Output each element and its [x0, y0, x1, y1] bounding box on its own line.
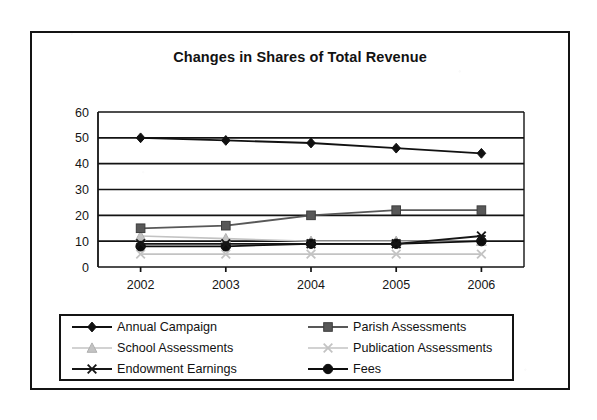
diamond-marker	[392, 143, 401, 153]
square-marker	[324, 322, 333, 331]
square-marker	[477, 206, 486, 215]
x-axis-tick: 2006	[467, 278, 495, 292]
chart-border: Changes in Shares of Total Revenue 01020…	[30, 31, 570, 390]
y-axis-tick: 60	[75, 106, 89, 120]
square-marker	[307, 211, 316, 220]
screenshot-canvas: Changes in Shares of Total Revenue 01020…	[0, 0, 597, 420]
legend-item-annual-campaign[interactable]: Annual Campaign	[69, 320, 305, 334]
legend-label: Annual Campaign	[117, 320, 217, 334]
legend-circle-marker	[305, 362, 351, 376]
diamond-marker	[307, 138, 316, 148]
legend-item-endowment-earnings[interactable]: Endowment Earnings	[69, 362, 305, 376]
y-axis-tick: 0	[82, 261, 89, 275]
series-annual-campaign	[136, 133, 485, 158]
legend-star-marker	[69, 362, 115, 376]
square-marker	[222, 221, 231, 230]
circle-marker	[477, 236, 486, 245]
square-marker	[136, 224, 145, 233]
legend-item-fees[interactable]: Fees	[305, 362, 512, 376]
diamond-marker	[88, 322, 97, 332]
legend-diamond-marker	[69, 320, 115, 334]
square-marker	[392, 206, 401, 215]
legend-item-school-assessments[interactable]: School Assessments	[69, 341, 305, 355]
series-publication-assessments	[136, 250, 485, 259]
legend-item-publication-assessments[interactable]: Publication Assessments	[305, 341, 512, 355]
circle-marker	[323, 364, 332, 373]
y-axis-tick: 20	[75, 209, 89, 223]
chart-legend: Annual CampaignParish AssessmentsSchool …	[59, 314, 514, 381]
legend-label: Endowment Earnings	[117, 362, 237, 376]
x-axis-tick: 2002	[127, 278, 155, 292]
legend-x-marker	[305, 341, 351, 355]
x-axis-tick: 2005	[382, 278, 410, 292]
star-marker	[88, 364, 97, 373]
y-axis-tick: 10	[75, 235, 89, 249]
x-axis-tick: 2003	[212, 278, 240, 292]
x-axis-tick: 2004	[297, 278, 325, 292]
legend-item-parish-assessments[interactable]: Parish Assessments	[305, 320, 512, 334]
diamond-marker	[477, 148, 486, 158]
legend-triangle-marker	[69, 341, 115, 355]
y-axis-tick: 50	[75, 131, 89, 145]
legend-label: Fees	[353, 362, 381, 376]
series-parish-assessments	[136, 206, 485, 233]
diamond-marker	[136, 133, 145, 143]
legend-label: Parish Assessments	[353, 320, 466, 334]
legend-label: School Assessments	[117, 341, 233, 355]
y-axis-tick: 40	[75, 157, 89, 171]
legend-label: Publication Assessments	[353, 341, 492, 355]
legend-square-marker	[305, 320, 351, 334]
y-axis-tick: 30	[75, 183, 89, 197]
